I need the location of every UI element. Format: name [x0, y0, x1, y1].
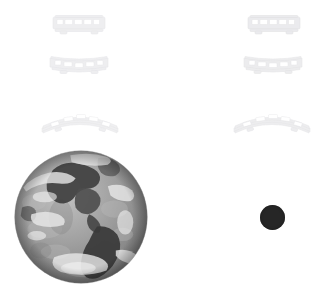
railcar-icon	[242, 54, 304, 76]
railcar-icon	[48, 54, 110, 76]
railcar-curved-left[interactable]	[40, 108, 120, 134]
railcar-icon	[232, 108, 312, 134]
railcar-icon	[50, 14, 108, 36]
earth-globe-graphic	[14, 150, 148, 284]
railcar-second-right[interactable]	[242, 54, 304, 76]
railcar-top-left[interactable]	[50, 14, 108, 36]
dark-disc[interactable]	[260, 205, 285, 230]
railcar-second-left[interactable]	[48, 54, 110, 76]
earth-globe[interactable]	[14, 150, 148, 284]
railcar-top-right[interactable]	[245, 14, 303, 36]
railcar-curved-right[interactable]	[232, 108, 312, 134]
scene-canvas	[0, 0, 329, 301]
railcar-icon	[245, 14, 303, 36]
railcar-icon	[40, 108, 120, 134]
